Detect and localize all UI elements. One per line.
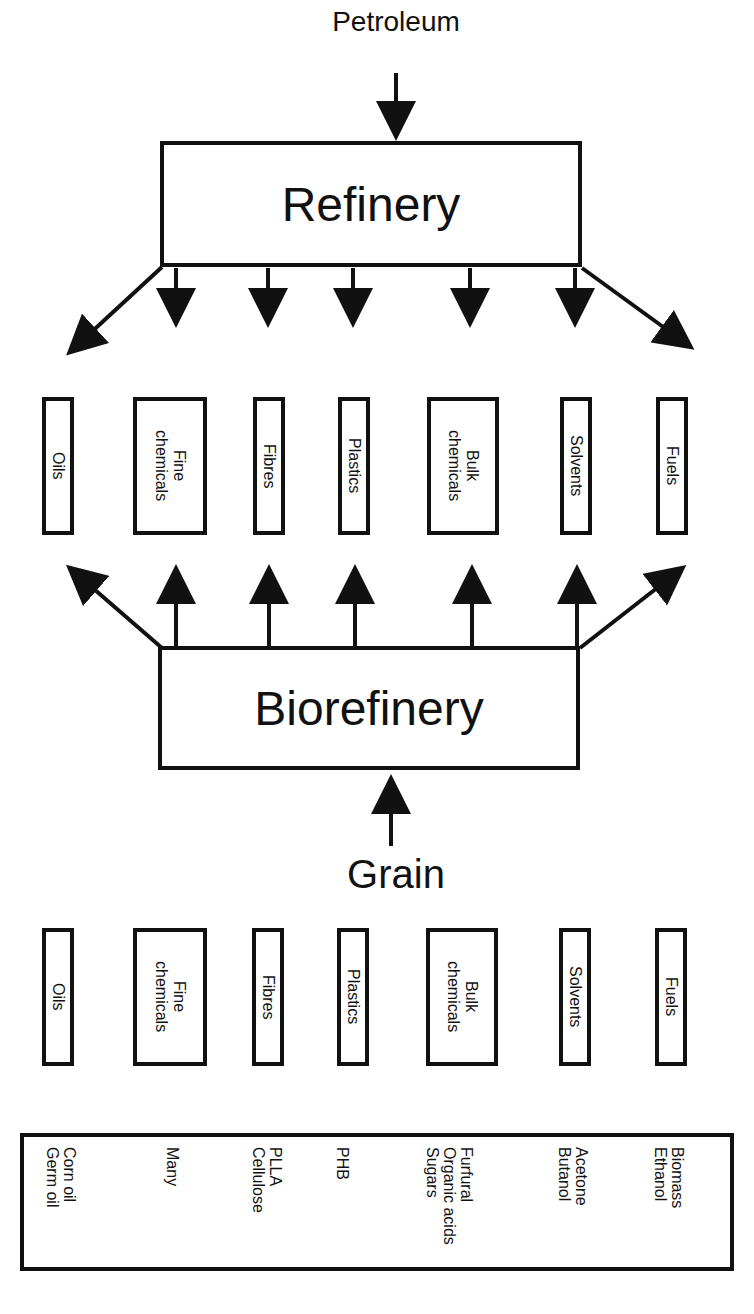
product-label: Fibres: [260, 444, 278, 488]
example-plastics: PHB: [334, 1147, 351, 1180]
product-box-fine-chemicals-top: Fine chemicals: [133, 397, 207, 535]
example-solvents: Acetone Butanol: [556, 1147, 590, 1206]
product-label: Fuels: [662, 977, 680, 1016]
product-box-oils-bottom: Oils: [42, 928, 74, 1066]
product-label: Bulk chemicals: [444, 961, 480, 1032]
product-label: Fine chemicals: [152, 430, 188, 501]
product-box-bulk-chemicals-top: Bulk chemicals: [427, 397, 499, 535]
example-bulk-chemicals: Furfural Organic acids Sugars: [424, 1147, 475, 1245]
product-box-solvents-top: Solvents: [560, 397, 592, 535]
product-box-fuels-top: Fuels: [656, 397, 688, 535]
product-box-plastics-bottom: Plastics: [337, 928, 369, 1066]
product-label: Fine chemicals: [152, 961, 188, 1032]
product-label: Plastics: [345, 438, 363, 493]
grain-label: Grain: [296, 852, 496, 897]
petroleum-label: Petroleum: [296, 6, 496, 38]
product-label: Oils: [49, 983, 67, 1011]
product-box-plastics-top: Plastics: [338, 397, 370, 535]
refinery-box: Refinery: [160, 141, 582, 267]
product-box-bulk-chemicals-bottom: Bulk chemicals: [426, 928, 498, 1066]
examples-box: Corn oil Germ oil Many PLLA Cellulose PH…: [20, 1133, 734, 1271]
product-label: Plastics: [344, 969, 362, 1024]
product-box-oils-top: Oils: [42, 397, 74, 535]
product-box-fibres-top: Fibres: [253, 397, 285, 535]
example-fuels: Biomass Ethanol: [652, 1147, 686, 1208]
product-box-fine-chemicals-bottom: Fine chemicals: [133, 928, 207, 1066]
product-label: Fuels: [663, 446, 681, 485]
example-fibres: PLLA Cellulose: [250, 1147, 284, 1213]
example-fine-chemicals: Many: [164, 1147, 181, 1186]
product-box-fuels-bottom: Fuels: [655, 928, 687, 1066]
product-box-solvents-bottom: Solvents: [559, 928, 591, 1066]
product-label: Bulk chemicals: [445, 430, 481, 501]
product-label: Solvents: [567, 435, 585, 496]
product-label: Solvents: [566, 966, 584, 1027]
biorefinery-box: Biorefinery: [158, 646, 580, 770]
refinery-label: Refinery: [282, 177, 461, 232]
product-box-fibres-bottom: Fibres: [252, 928, 284, 1066]
product-label: Fibres: [259, 975, 277, 1019]
biorefinery-label: Biorefinery: [254, 681, 483, 736]
example-oils: Corn oil Germ oil: [44, 1147, 78, 1207]
product-label: Oils: [49, 452, 67, 480]
